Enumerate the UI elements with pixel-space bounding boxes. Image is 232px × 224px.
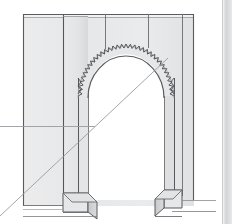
- architectural-drawing: [0, 0, 232, 224]
- left-jamb-reveal: [78, 92, 88, 200]
- drawing-canvas: [0, 0, 232, 224]
- right-jamb-reveal: [164, 92, 174, 200]
- opening-void: [88, 54, 164, 200]
- page-edge-band: [222, 0, 232, 224]
